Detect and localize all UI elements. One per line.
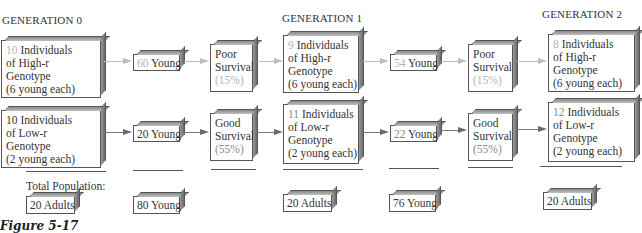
survival-text: Survival (473, 130, 508, 143)
gen2-low-r-box: 12 Individuals of Low-r Genotype (2 youn… (548, 102, 635, 162)
survival-text: Good (215, 117, 248, 130)
survival-text: Survival (215, 130, 248, 143)
total-text: 80 Young (137, 199, 181, 211)
arrow-light (184, 61, 209, 62)
genotype-text: Genotype (553, 132, 630, 145)
survival-text: Survival (215, 61, 248, 74)
arrow-dark (363, 132, 389, 133)
generation-2-label: GENERATION 2 (542, 8, 622, 20)
individuals-text: Individuals (299, 108, 354, 120)
young-each-text: (2 young each) (553, 145, 630, 158)
sum-rule (283, 169, 363, 170)
gen0-high-young-box: 60 Young (133, 54, 180, 71)
gen1-low-r-box: 11 Individuals of Low-r Genotype (2 youn… (283, 104, 359, 164)
gen0-low-r-box: 10 Individuals of Low-r Genotype (2 youn… (1, 110, 101, 168)
genotype-text: Genotype (6, 70, 96, 83)
sum-rule (540, 166, 622, 167)
sum-rule (133, 170, 183, 171)
poor-survival-box-1: Poor Survival (15%) (210, 44, 253, 92)
survival-percent: (15%) (473, 74, 508, 87)
generation-1-label: GENERATION 1 (282, 12, 362, 24)
individuals-text: Individuals (18, 44, 73, 56)
arrow-dark (517, 129, 547, 130)
genotype-label: of High-r (553, 51, 630, 64)
total-population-label: Total Population: (26, 180, 105, 192)
survival-percent: (15%) (215, 74, 248, 87)
young-each-text: (2 young each) (288, 147, 354, 160)
individuals-text: Individuals (294, 39, 349, 51)
sum-rule (26, 171, 106, 172)
gen0-total-box: 20 Adults (26, 196, 75, 214)
gen0-low-r-count: 10 (6, 114, 18, 126)
survival-text: Survival (473, 61, 508, 74)
gen0-low-young-box: 20 Young (133, 125, 180, 142)
genotype-label: of Low-r (288, 121, 354, 134)
young-text: Young (149, 57, 182, 69)
good-survival-box-1: Good Survival (55%) (210, 113, 253, 161)
arrow-light (257, 61, 283, 62)
gen1-total-box: 20 Adults (283, 194, 332, 212)
generation-0-label: GENERATION 0 (2, 14, 82, 26)
gen1-low-r-count: 11 (288, 108, 299, 120)
genotype-text: Genotype (288, 65, 354, 78)
young-text: Young (406, 57, 439, 69)
individuals-text: Individuals (18, 114, 73, 126)
arrow-dark (184, 132, 209, 133)
young-text: Young (406, 128, 439, 140)
survival-text: Poor (215, 48, 248, 61)
individuals-text: Individuals (559, 38, 614, 50)
arrow-light (104, 61, 132, 62)
young-count: 54 (394, 57, 406, 69)
young0-total-box: 80 Young (133, 196, 180, 214)
total-text: 76 Young (393, 197, 437, 209)
young-count: 22 (394, 128, 406, 140)
survival-percent: (55%) (473, 143, 508, 156)
arrow-light (363, 61, 389, 62)
gen2-high-r-box: 8 Individuals of High-r Genotype (6 youn… (548, 34, 635, 92)
genotype-text: Genotype (6, 140, 96, 153)
arrow-light (517, 61, 547, 62)
sum-rule (389, 168, 439, 169)
figure-caption: Figure 5-17 (0, 219, 78, 233)
gen1-high-r-box: 9 Individuals of High-r Genotype (6 youn… (283, 35, 359, 93)
good-survival-box-2: Good Survival (55%) (468, 113, 513, 161)
young-count: 20 (137, 128, 149, 140)
gen2-total-box: 20 Adults (543, 192, 592, 210)
young-each-text: (6 young each) (553, 77, 630, 90)
individuals-text: Individuals (565, 106, 620, 118)
young-each-text: (6 young each) (288, 78, 354, 91)
gen0-high-r-count: 10 (6, 44, 18, 56)
gen0-high-r-box: 10 Individuals of High-r Genotype (6 you… (1, 40, 101, 98)
young-text: Young (149, 128, 182, 140)
total-text: 20 Adults (30, 199, 74, 211)
arrow-dark (441, 130, 467, 131)
arrow-dark (104, 132, 132, 133)
genotype-label: of High-r (288, 52, 354, 65)
young-each-text: (6 young each) (6, 83, 96, 96)
survival-text: Poor (473, 48, 508, 61)
poor-survival-box-2: Poor Survival (15%) (468, 44, 513, 92)
gen2-low-r-count: 12 (553, 106, 565, 118)
genotype-label: of High-r (6, 57, 96, 70)
survival-text: Good (473, 117, 508, 130)
arrow-dark (257, 132, 283, 133)
genotype-text: Genotype (288, 134, 354, 147)
sum-rule (211, 169, 256, 170)
sum-rule (468, 167, 513, 168)
gen1-low-young-box: 22 Young (390, 125, 437, 142)
genotype-label: of Low-r (6, 127, 96, 140)
young1-total-box: 76 Young (389, 194, 436, 212)
survival-percent: (55%) (215, 143, 248, 156)
total-text: 20 Adults (287, 197, 331, 209)
gen1-high-young-box: 54 Young (390, 54, 437, 71)
total-text: 20 Adults (547, 195, 591, 207)
genotype-text: Genotype (553, 64, 630, 77)
young-count: 60 (137, 57, 149, 69)
genotype-label: of Low-r (553, 119, 630, 132)
arrow-light (441, 61, 467, 62)
young-each-text: (2 young each) (6, 153, 96, 166)
